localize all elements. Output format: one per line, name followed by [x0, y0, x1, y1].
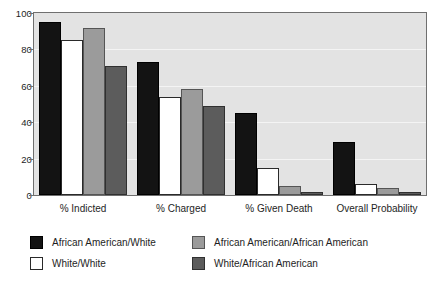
bar [181, 89, 203, 195]
y-axis-tick-label: 60 [0, 80, 32, 91]
bar [235, 113, 257, 195]
y-axis-tick-label: 20 [0, 153, 32, 164]
y-axis-tick-label: 80 [0, 44, 32, 55]
x-axis-tick-label: % Given Death [245, 203, 312, 214]
legend-item: African American/African American [192, 236, 368, 249]
legend-label: White/White [52, 258, 106, 269]
legend-swatch-icon [30, 236, 43, 249]
bar [257, 168, 279, 195]
bar [39, 22, 61, 195]
y-axis-tick-mark [29, 13, 33, 14]
x-axis-tick-label: % Indicted [60, 203, 107, 214]
bar [203, 106, 225, 195]
legend-swatch-icon [30, 257, 43, 270]
legend-item: White/White [30, 257, 106, 270]
legend-swatch-icon [192, 236, 205, 249]
bar [355, 184, 377, 195]
y-axis-tick-label: 100 [0, 8, 32, 19]
y-axis-tick-label: 0 [0, 190, 32, 201]
legend-label: African American/African American [214, 237, 368, 248]
legend-label: White/African American [214, 258, 318, 269]
legend-label: African American/White [52, 237, 156, 248]
y-axis-tick-mark [29, 122, 33, 123]
y-axis-tick-mark [29, 49, 33, 50]
bar [61, 40, 83, 195]
y-axis-tick-mark [29, 159, 33, 160]
x-axis-tick-label: Overall Probability [336, 203, 417, 214]
bar [137, 62, 159, 195]
legend-swatch-icon [192, 257, 205, 270]
bar [83, 28, 105, 195]
bar [377, 188, 399, 195]
legend-item: African American/White [30, 236, 156, 249]
bar [279, 186, 301, 195]
y-axis-tick-mark [29, 195, 33, 196]
legend-item: White/African American [192, 257, 318, 270]
bar [399, 192, 421, 195]
bar-chart: 020406080100 % Indicted% Charged% Given … [0, 0, 441, 283]
bars-layer [34, 13, 426, 195]
y-axis-tick-mark [29, 86, 33, 87]
bar [333, 142, 355, 195]
bar [159, 97, 181, 195]
bar [105, 66, 127, 195]
x-axis-tick-label: % Charged [156, 203, 206, 214]
bar [301, 192, 323, 195]
y-axis-tick-label: 40 [0, 117, 32, 128]
